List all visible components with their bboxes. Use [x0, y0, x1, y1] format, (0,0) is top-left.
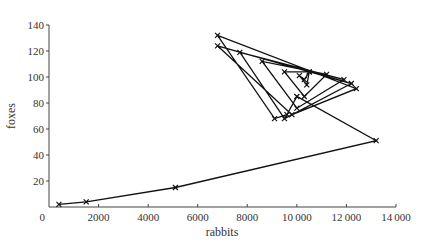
x-axis-label: rabbits: [206, 225, 239, 239]
x-tick-label: 10 000: [282, 211, 312, 223]
trajectory-line: [59, 35, 376, 204]
x-tick-label: 2000: [88, 211, 111, 223]
y-ticks: 20406080100120140: [28, 19, 50, 187]
y-tick-label: 20: [33, 175, 45, 187]
origin-label: 0: [40, 211, 46, 223]
data-markers: [56, 33, 378, 207]
x-tick-label: 12 000: [332, 211, 362, 223]
y-tick-label: 100: [28, 71, 45, 83]
x-tick-label: 8000: [236, 211, 259, 223]
y-tick-label: 140: [28, 19, 45, 31]
x-marker: [302, 94, 307, 99]
x-marker: [294, 106, 299, 111]
y-tick-label: 40: [33, 149, 45, 161]
x-marker: [297, 73, 302, 78]
x-tick-label: 14 000: [381, 211, 411, 223]
y-axis-label: foxes: [4, 103, 18, 129]
x-marker: [289, 112, 294, 117]
y-tick-label: 80: [33, 97, 45, 109]
x-marker: [294, 94, 299, 99]
x-tick-label: 4000: [137, 211, 160, 223]
y-tick-label: 60: [33, 123, 45, 135]
x-tick-label: 6000: [187, 211, 210, 223]
y-tick-label: 120: [28, 45, 45, 57]
phase-plot: 20406080100120140 200040006000800010 000…: [0, 0, 429, 244]
axes: [49, 25, 396, 207]
